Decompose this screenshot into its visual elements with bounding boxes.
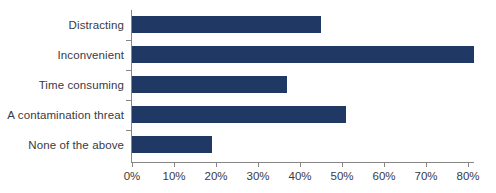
x-axis-tick: [216, 163, 217, 167]
y-axis-tick: [126, 40, 131, 41]
x-axis-tick-label: 50%: [330, 170, 353, 182]
bar-chart: DistractingInconvenientTime consumingA c…: [0, 0, 496, 193]
bar-row: A contamination threat: [0, 100, 496, 130]
bar-row: Time consuming: [0, 70, 496, 100]
x-axis-tick: [384, 163, 385, 167]
bar-row: Inconvenient: [0, 40, 496, 70]
bar: [132, 76, 287, 93]
x-axis-tick-label: 70%: [414, 170, 437, 182]
x-axis-tick-label: 0%: [124, 170, 141, 182]
x-axis-tick: [426, 163, 427, 167]
x-axis-tick: [468, 163, 469, 167]
bar: [132, 46, 474, 63]
bar-row: None of the above: [0, 130, 496, 160]
x-axis-tick-label: 80%: [456, 170, 479, 182]
category-label: A contamination threat: [0, 100, 124, 130]
x-axis-line: [131, 162, 474, 163]
y-axis-tick: [126, 70, 131, 71]
y-axis-tick: [126, 100, 131, 101]
category-label: Distracting: [0, 10, 124, 40]
bar: [132, 16, 321, 33]
x-axis-tick-label: 20%: [204, 170, 227, 182]
bar-row: Distracting: [0, 10, 496, 40]
y-axis-tick: [126, 130, 131, 131]
category-label: Inconvenient: [0, 40, 124, 70]
x-axis-tick: [300, 163, 301, 167]
x-axis-tick: [132, 163, 133, 167]
x-axis-tick: [174, 163, 175, 167]
bar: [132, 136, 212, 153]
x-axis-tick-label: 10%: [162, 170, 185, 182]
x-axis-tick: [342, 163, 343, 167]
x-axis-tick-label: 60%: [372, 170, 395, 182]
x-axis-tick: [258, 163, 259, 167]
x-axis-tick-label: 30%: [246, 170, 269, 182]
category-label: Time consuming: [0, 70, 124, 100]
bar: [132, 106, 346, 123]
x-axis-tick-label: 40%: [288, 170, 311, 182]
chart-title-clipped: [0, 0, 496, 6]
category-label: None of the above: [0, 130, 124, 160]
